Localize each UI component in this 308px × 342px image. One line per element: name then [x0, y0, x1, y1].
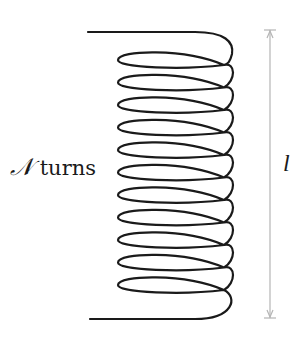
solenoid-coil-wire: [88, 32, 233, 319]
length-dimension-line: [264, 30, 276, 318]
turns-label: 𝒩 turns: [10, 154, 96, 181]
turns-symbol: 𝒩: [10, 154, 33, 180]
length-label: l: [283, 150, 290, 177]
turns-text: turns: [33, 156, 96, 180]
